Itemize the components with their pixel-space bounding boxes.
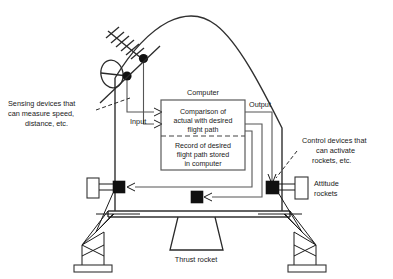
right-attitude-actuator	[266, 181, 279, 194]
record-line-1: Record of desired	[175, 142, 231, 150]
control-leader-line	[276, 151, 297, 178]
diagram-canvas: Computer Comparison of actual with desir…	[0, 0, 393, 279]
control-annotation-line-3: rockets, etc.	[312, 156, 351, 165]
control-annotation-line-2: can activate	[316, 146, 355, 155]
left-attitude-actuator	[113, 181, 125, 193]
comparison-line-3: flight path	[188, 126, 219, 134]
output-label: Output	[249, 100, 271, 109]
thrust-rocket-nozzle	[170, 217, 223, 250]
spacecraft-control-diagram: Computer Comparison of actual with desir…	[0, 0, 393, 279]
attitude-rockets-line-1: Attitude	[314, 179, 339, 188]
right-landing-leg	[258, 194, 326, 272]
input-label: Input	[130, 117, 146, 126]
comparison-line-2: actual with desired	[174, 117, 233, 125]
dish-sensor-node	[122, 71, 131, 80]
control-annotation-line-1: Control devices that	[302, 136, 367, 145]
record-line-2: flight path stored	[177, 151, 230, 159]
computer-header-label: Computer	[187, 88, 220, 97]
sensing-leader-line	[96, 98, 130, 110]
attitude-rockets-line-2: rockets	[314, 189, 338, 198]
sensing-annotation-line-1: Sensing devices that	[8, 99, 75, 108]
left-attitude-rocket	[87, 178, 113, 198]
yagi-antenna-icon	[106, 27, 144, 59]
thrust-rocket-label: Thrust rocket	[175, 255, 218, 264]
thrust-actuator	[191, 191, 203, 203]
record-line-3: in computer	[184, 160, 222, 168]
sensing-annotation-line-3: distance, etc.	[25, 119, 68, 128]
comparison-line-1: Comparison of	[180, 108, 226, 116]
sensing-annotation-line-2: can measure speed,	[8, 109, 74, 118]
right-attitude-rocket	[279, 177, 308, 199]
left-landing-leg	[74, 193, 140, 272]
